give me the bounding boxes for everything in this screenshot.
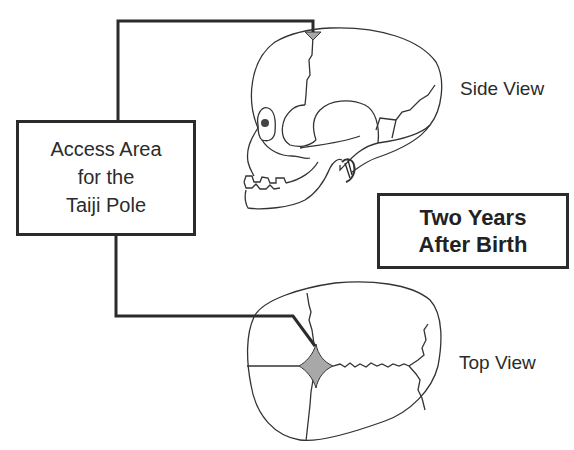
leader-line-side (118, 21, 313, 120)
access-area-callout: Access Area for the Taiji Pole (16, 120, 196, 236)
fontanelle-top (299, 344, 333, 388)
skull-top-view (247, 282, 441, 441)
fontanelle-side (305, 32, 321, 40)
skull-side-view (244, 28, 442, 209)
side-view-label: Side View (460, 78, 544, 100)
callout-line-2: for the (78, 163, 135, 191)
age-label-box: Two Years After Birth (377, 193, 569, 269)
top-view-label: Top View (459, 352, 536, 374)
callout-line-1: Access Area (50, 135, 161, 163)
callout-line-3: Taiji Pole (66, 191, 146, 219)
leader-line-top (116, 236, 315, 346)
age-line-2: After Birth (419, 231, 528, 258)
age-line-1: Two Years (420, 204, 527, 231)
